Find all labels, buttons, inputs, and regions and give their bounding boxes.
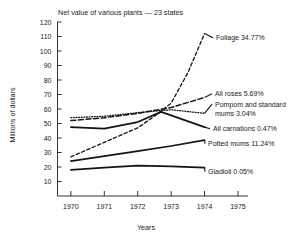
x-axis: 197019711972197319741975 — [63, 191, 246, 210]
x-tick-label: 1974 — [197, 203, 213, 210]
y-axis-title: Millions of dollars — [8, 87, 17, 143]
y-tick-label: 70 — [44, 91, 52, 98]
x-tick-label: 1973 — [163, 203, 179, 210]
series-line — [71, 112, 205, 129]
series-label: Foliage 34.77% — [216, 34, 265, 42]
line-chart: Net value of various plants — 23 states … — [0, 0, 295, 236]
y-tick-label: 30 — [44, 149, 52, 156]
label-leader-line — [205, 127, 210, 129]
x-tick-label: 1975 — [230, 203, 246, 210]
y-axis: 102030405060708090100110120 — [40, 19, 62, 186]
series-label: Gladioli 0.05% — [208, 168, 253, 175]
x-tick-label: 1970 — [63, 203, 79, 210]
series-labels: Foliage 34.77%All roses 5.69%Pompom and … — [205, 34, 286, 175]
y-tick-label: 50 — [44, 120, 52, 127]
y-tick-label: 40 — [44, 135, 52, 142]
series-line — [71, 166, 205, 170]
chart-title: Net value of various plants — 23 states — [58, 8, 183, 17]
series-lines — [71, 34, 205, 170]
y-tick-label: 10 — [44, 178, 52, 185]
series-line — [71, 34, 205, 157]
series-label: Pompom and standard — [215, 101, 286, 109]
y-tick-label: 100 — [40, 48, 52, 55]
y-tick-label: 60 — [44, 106, 52, 113]
x-axis-title: Years — [137, 223, 156, 232]
series-line — [71, 97, 205, 120]
y-tick-label: 20 — [44, 164, 52, 171]
label-leader-line — [205, 94, 212, 98]
label-leader-line — [205, 34, 213, 38]
series-line — [71, 140, 205, 161]
y-tick-label: 110 — [40, 33, 51, 40]
x-tick-label: 1971 — [97, 203, 113, 210]
y-tick-label: 80 — [44, 77, 52, 84]
y-tick-label: 90 — [44, 62, 52, 69]
series-label: All carnations 0.47% — [213, 125, 277, 132]
series-label: Potted mums 11.24% — [208, 140, 274, 147]
x-tick-label: 1972 — [130, 203, 146, 210]
chart-container: Net value of various plants — 23 states … — [0, 0, 295, 236]
series-label: mums 3.04% — [215, 110, 256, 117]
series-label: All roses 5.69% — [215, 90, 264, 97]
label-leader-line — [205, 104, 212, 113]
series-line — [71, 110, 205, 118]
y-tick-label: 120 — [40, 19, 52, 26]
